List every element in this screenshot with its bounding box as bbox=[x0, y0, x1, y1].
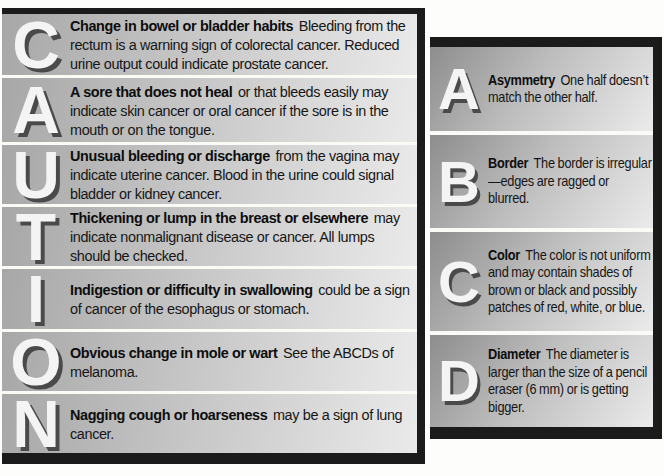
abcd-text-d: DiameterThe diameter is larger than the … bbox=[488, 346, 652, 416]
abcd-row-c: C ColorThe color is not uniform and may … bbox=[430, 232, 653, 331]
caution-lead-o: Obvious change in mole or wart bbox=[70, 344, 278, 361]
abcd-letter-a: A bbox=[430, 60, 488, 118]
abcd-row-d: D DiameterThe diameter is larger than th… bbox=[430, 335, 653, 427]
caution-row-o: O Obvious change in mole or wartSee the … bbox=[2, 332, 417, 391]
caution-text-u: Unusual bleeding or dischargefrom the va… bbox=[70, 146, 415, 203]
caution-lead-a: A sore that does not heal bbox=[70, 83, 232, 100]
caution-row-u: U Unusual bleeding or dischargefrom the … bbox=[2, 145, 417, 204]
caution-lead-i: Indigestion or difficulty in swallowing bbox=[70, 281, 313, 298]
caution-text-a: A sore that does not healor that bleeds … bbox=[70, 82, 415, 139]
caution-row-a: A A sore that does not healor that bleed… bbox=[2, 78, 417, 142]
abcd-panel: A AsymmetryOne half doesn’t match the ot… bbox=[430, 37, 662, 439]
abcd-lead-b: Border bbox=[488, 155, 528, 171]
abcd-lead-c: Color bbox=[488, 247, 520, 263]
caution-letter-c: C bbox=[2, 14, 70, 75]
caution-text-c: Change in bowel or bladder habitsBleedin… bbox=[70, 16, 415, 73]
caution-text-i: Indigestion or difficulty in swallowingc… bbox=[70, 280, 415, 318]
abcd-lead-a: Asymmetry bbox=[488, 72, 555, 88]
abcd-letter-d: D bbox=[430, 352, 488, 410]
abcd-row-a: A AsymmetryOne half doesn’t match the ot… bbox=[430, 47, 653, 131]
caution-row-n: N Nagging cough or hoarsenessmay be a si… bbox=[2, 394, 417, 453]
caution-letter-a: A bbox=[2, 78, 70, 142]
caution-letter-u: U bbox=[2, 145, 70, 204]
abcd-lead-d: Diameter bbox=[488, 346, 541, 362]
abcd-letter-b: B bbox=[430, 153, 488, 211]
abcd-text-b: BorderThe border is irregular—edges are … bbox=[488, 155, 652, 208]
caution-text-o: Obvious change in mole or wartSee the AB… bbox=[70, 343, 415, 381]
figure-canvas: { "colors": { "bar_black": "#1b1b1b", "r… bbox=[0, 0, 664, 476]
caution-letter-t: T bbox=[2, 207, 70, 266]
caution-row-i: I Indigestion or difficulty in swallowin… bbox=[2, 269, 417, 329]
caution-text-t: Thickening or lump in the breast or else… bbox=[70, 208, 415, 265]
caution-row-t: T Thickening or lump in the breast or el… bbox=[2, 207, 417, 266]
caution-letter-i: I bbox=[2, 269, 70, 329]
caution-text-n: Nagging cough or hoarsenessmay be a sign… bbox=[70, 405, 415, 443]
abcd-text-c: ColorThe color is not uniform and may co… bbox=[488, 247, 652, 317]
caution-row-c: C Change in bowel or bladder habitsBleed… bbox=[2, 14, 417, 75]
abcd-letter-c: C bbox=[430, 253, 488, 311]
caution-letter-n: N bbox=[2, 394, 70, 453]
caution-lead-u: Unusual bleeding or discharge bbox=[70, 147, 270, 164]
caution-lead-t: Thickening or lump in the breast or else… bbox=[70, 209, 368, 226]
abcd-row-b: B BorderThe border is irregular—edges ar… bbox=[430, 135, 653, 228]
abcd-text-a: AsymmetryOne half doesn’t match the othe… bbox=[488, 72, 652, 107]
caution-lead-c: Change in bowel or bladder habits bbox=[70, 17, 293, 34]
caution-letter-o: O bbox=[2, 332, 70, 391]
caution-lead-n: Nagging cough or hoarseness bbox=[70, 406, 267, 423]
caution-panel: C Change in bowel or bladder habitsBleed… bbox=[2, 8, 425, 464]
